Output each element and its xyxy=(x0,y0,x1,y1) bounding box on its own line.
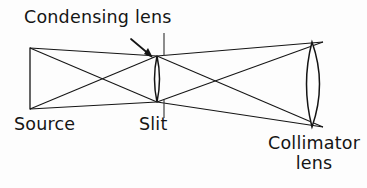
label-condensing-lens: Condensing lens xyxy=(24,8,172,28)
ray-source-bottom-to-lens-top xyxy=(30,56,157,109)
ray-lens-bottom-to-collimator-top xyxy=(157,42,323,102)
label-collimator-lens: Collimator lens xyxy=(268,134,360,173)
ray-source-top-to-lens-bottom xyxy=(30,48,157,102)
ray-lens-top-to-collimator-bottom xyxy=(157,56,323,127)
ray-lens-top-to-collimator-top xyxy=(157,42,323,56)
left-ray-bundle xyxy=(30,48,157,109)
condensing-lens-shape xyxy=(155,56,160,102)
label-source: Source xyxy=(14,115,75,135)
collimator-lens-shape xyxy=(307,42,320,127)
ray-lens-bottom-to-collimator-bottom xyxy=(157,102,323,127)
label-collimator-lens-line2: lens xyxy=(268,154,360,174)
pointer-arrow-head xyxy=(144,48,153,58)
ray-source-bottom-to-lens-bottom xyxy=(30,102,157,109)
optical-diagram-figure: Condensing lens Source Slit Collimator l… xyxy=(0,0,367,188)
ray-source-top-to-lens-top xyxy=(30,48,157,56)
label-collimator-lens-line1: Collimator xyxy=(268,133,360,153)
label-slit: Slit xyxy=(139,115,168,135)
right-ray-bundle xyxy=(157,42,323,127)
